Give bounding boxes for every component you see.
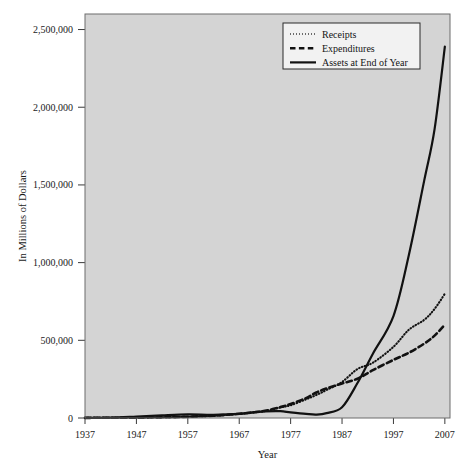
line-chart: 0500,0001,000,0001,500,0002,000,0002,500… xyxy=(0,0,469,472)
x-tick-label: 1967 xyxy=(229,429,249,440)
y-axis-title: In Millions of Dollars xyxy=(17,170,28,262)
x-tick-label: 1977 xyxy=(281,429,301,440)
legend-label: Expenditures xyxy=(322,43,375,54)
y-tick-label: 500,000 xyxy=(41,335,74,346)
x-tick-label: 1957 xyxy=(178,429,198,440)
x-tick-label: 2007 xyxy=(435,429,455,440)
x-tick-label: 1937 xyxy=(75,429,95,440)
x-tick-label: 1987 xyxy=(332,429,352,440)
y-tick-label: 1,500,000 xyxy=(33,179,73,190)
x-tick-label: 1997 xyxy=(383,429,403,440)
y-tick-label: 0 xyxy=(68,413,73,424)
y-tick-label: 2,000,000 xyxy=(33,102,73,113)
x-axis-title: Year xyxy=(258,449,278,460)
plot-background xyxy=(85,14,450,418)
y-tick-label: 2,500,000 xyxy=(33,24,73,35)
y-axis: 0500,0001,000,0001,500,0002,000,0002,500… xyxy=(33,24,85,423)
x-axis: 19371947195719671977198719972007 xyxy=(75,418,455,440)
legend: ReceiptsExpendituresAssets at End of Yea… xyxy=(283,23,420,69)
x-tick-label: 1947 xyxy=(126,429,146,440)
legend-label: Assets at End of Year xyxy=(322,57,408,68)
legend-label: Receipts xyxy=(322,29,357,40)
chart-figure: 0500,0001,000,0001,500,0002,000,0002,500… xyxy=(0,0,469,472)
y-tick-label: 1,000,000 xyxy=(33,257,73,268)
